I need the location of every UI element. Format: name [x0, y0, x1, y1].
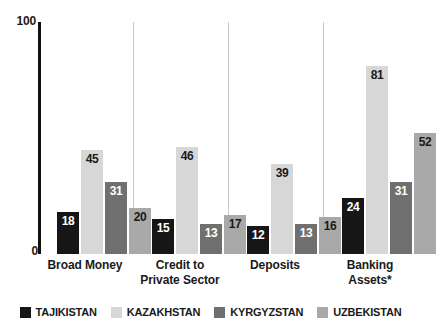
y-axis-max-label: 100	[2, 14, 36, 28]
legend-item[interactable]: TAJIKISTAN	[20, 306, 97, 318]
bar-item[interactable]: 20	[129, 22, 151, 254]
bar-item[interactable]: 13	[200, 22, 222, 254]
legend-swatch-icon	[317, 307, 328, 318]
category-label-line: Private Sector	[120, 273, 240, 288]
bar-item[interactable]: 45	[81, 22, 103, 254]
bar[interactable]	[366, 66, 388, 254]
bar-item[interactable]: 24	[342, 22, 364, 254]
bar-item[interactable]: 12	[247, 22, 269, 254]
bar-group-bars: 18453120	[57, 22, 151, 254]
bar-item[interactable]: 13	[295, 22, 317, 254]
bar-value-label: 18	[55, 214, 81, 228]
category-label-line: Assets*	[310, 273, 430, 288]
bar-item[interactable]: 31	[105, 22, 127, 254]
y-axis-min-label: 0	[4, 244, 38, 258]
legend-swatch-icon	[20, 307, 31, 318]
bar-item[interactable]: 39	[271, 22, 293, 254]
bar-item[interactable]: 31	[390, 22, 412, 254]
legend-swatch-icon	[214, 307, 225, 318]
chart-legend: TAJIKISTANKAZAKHSTANKYRGYZSTANUZBEKISTAN	[0, 306, 421, 318]
legend-swatch-icon	[111, 307, 122, 318]
bar-value-label: 16	[317, 219, 343, 233]
bar-value-label: 39	[269, 166, 295, 180]
plot-area: 100 0 18453120154613171239131624813152	[38, 22, 413, 254]
category-label-line: Banking	[310, 258, 430, 273]
bar-item[interactable]: 16	[319, 22, 341, 254]
bar-value-label: 46	[174, 149, 200, 163]
legend-label: TAJIKISTAN	[36, 306, 97, 318]
bar-value-label: 31	[388, 184, 414, 198]
legend-item[interactable]: UZBEKISTAN	[317, 306, 401, 318]
bar-value-label: 52	[412, 135, 438, 149]
bar-value-label: 12	[245, 228, 271, 242]
legend-item[interactable]: KYRGYZSTAN	[214, 306, 303, 318]
y-axis-line	[38, 22, 41, 254]
bar-value-label: 13	[293, 226, 319, 240]
bar-group-bars: 24813152	[342, 22, 436, 254]
bar-item[interactable]: 17	[224, 22, 246, 254]
bar-item[interactable]: 18	[57, 22, 79, 254]
bar-item[interactable]: 15	[152, 22, 174, 254]
bar-value-label: 31	[103, 184, 129, 198]
legend-item[interactable]: KAZAKHSTAN	[111, 306, 201, 318]
bar-item[interactable]: 46	[176, 22, 198, 254]
category-label: BankingAssets*	[310, 258, 430, 287]
bar-value-label: 24	[340, 200, 366, 214]
bar-group-bars: 12391316	[247, 22, 341, 254]
bar-value-label: 13	[198, 226, 224, 240]
legend-label: KAZAKHSTAN	[127, 306, 201, 318]
bar[interactable]	[176, 147, 198, 254]
bar-value-label: 81	[364, 68, 390, 82]
bar-group-bars: 15461317	[152, 22, 246, 254]
legend-label: UZBEKISTAN	[333, 306, 401, 318]
legend-label: KYRGYZSTAN	[230, 306, 303, 318]
bar-item[interactable]: 52	[414, 22, 436, 254]
bar-value-label: 15	[150, 221, 176, 235]
bar-value-label: 45	[79, 152, 105, 166]
bar-item[interactable]: 81	[366, 22, 388, 254]
bar[interactable]	[414, 133, 436, 254]
